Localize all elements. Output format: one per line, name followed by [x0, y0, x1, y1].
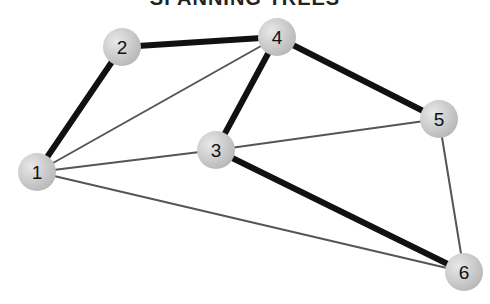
node-label: 3	[211, 140, 222, 161]
node-3: 3	[197, 131, 235, 169]
tree-edge-1-2	[37, 47, 122, 172]
tree-edge-2-4	[122, 37, 277, 47]
node-label: 2	[117, 37, 128, 58]
node-label: 1	[32, 162, 43, 183]
edge-1-6	[37, 172, 464, 272]
node-4: 4	[258, 18, 296, 56]
edge-3-5	[216, 119, 439, 150]
node-label: 6	[459, 262, 470, 283]
tree-edge-4-5	[277, 37, 439, 119]
node-label: 5	[434, 109, 445, 130]
tree-edge-3-6	[216, 150, 464, 272]
edge-1-3	[37, 150, 216, 172]
graph-canvas: 123456	[0, 0, 490, 304]
node-2: 2	[103, 28, 141, 66]
edge-layer	[37, 37, 464, 272]
node-label: 4	[272, 27, 283, 48]
node-5: 5	[420, 100, 458, 138]
node-1: 1	[18, 153, 56, 191]
edge-5-6	[439, 119, 464, 272]
node-6: 6	[445, 253, 483, 291]
